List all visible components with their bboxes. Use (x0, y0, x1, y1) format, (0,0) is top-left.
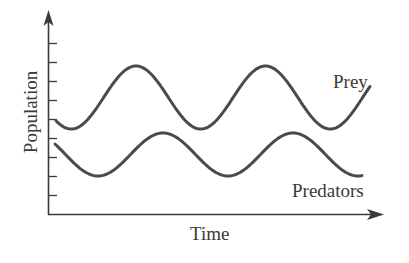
x-axis-label: Time (190, 223, 229, 244)
x-axis (48, 209, 384, 220)
prey-label: Prey (333, 71, 368, 92)
y-axis-label: Population (20, 70, 41, 153)
predator-prey-chart: Prey Predators Time Population (0, 0, 409, 263)
y-axis (44, 10, 58, 215)
predators-label: Predators (292, 180, 364, 201)
predators-curve (55, 133, 362, 176)
prey-curve (56, 66, 370, 129)
